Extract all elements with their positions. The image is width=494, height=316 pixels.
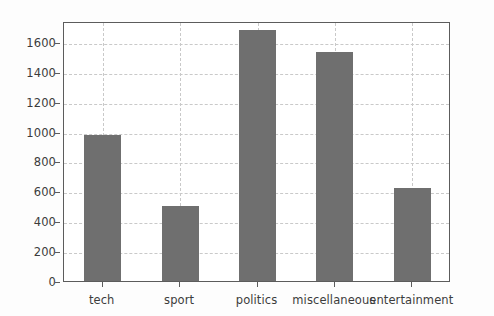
y-tick-mark <box>55 252 60 253</box>
x-tick-label-sport: sport <box>164 293 194 307</box>
y-tick-mark <box>55 73 60 74</box>
y-tick-label: 1600 <box>26 36 56 50</box>
y-tick-label: 600 <box>34 185 56 199</box>
x-tick-mark <box>257 282 258 287</box>
bar-entertainment <box>394 188 431 281</box>
y-tick-mark <box>55 43 60 44</box>
bar-chart-figure: 02004006008001000120014001600 techsportp… <box>0 0 494 316</box>
bar-miscellaneous <box>316 52 353 281</box>
y-tick-label: 1000 <box>26 126 56 140</box>
y-tick-mark <box>55 103 60 104</box>
x-tick-label-tech: tech <box>89 293 115 307</box>
x-tick-mark <box>102 282 103 287</box>
bar-politics <box>239 30 276 281</box>
y-tick-label: 200 <box>34 245 56 259</box>
y-tick-label: 800 <box>34 155 56 169</box>
bar-tech <box>84 135 121 281</box>
x-tick-label-miscellaneous: miscellaneous <box>292 293 375 307</box>
bar-sport <box>162 206 199 281</box>
plot-area <box>63 22 450 282</box>
y-tick-mark <box>55 282 60 283</box>
x-tick-label-entertainment: entertainment <box>369 293 453 307</box>
y-tick-mark <box>55 222 60 223</box>
x-tick-mark <box>179 282 180 287</box>
y-tick-label: 400 <box>34 215 56 229</box>
x-axis: techsportpoliticsmiscellaneousentertainm… <box>63 286 450 308</box>
x-tick-mark <box>334 282 335 287</box>
y-tick-label: 1200 <box>26 96 56 110</box>
x-tick-mark <box>411 282 412 287</box>
y-tick-mark <box>55 162 60 163</box>
y-tick-label: 1400 <box>26 66 56 80</box>
y-axis: 02004006008001000120014001600 <box>0 22 56 282</box>
y-tick-mark <box>55 133 60 134</box>
y-tick-mark <box>55 192 60 193</box>
x-tick-label-politics: politics <box>236 293 278 307</box>
